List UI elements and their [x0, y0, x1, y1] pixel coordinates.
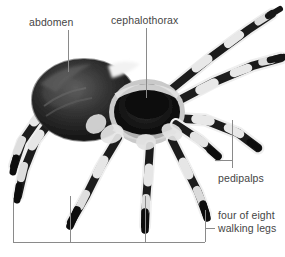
- label-walking-legs-line1: four of eight: [218, 209, 276, 222]
- spider-anatomy-figure: abdomen cephalothorax pedipalps four of …: [0, 0, 285, 257]
- label-pedipalps: pedipalps: [218, 172, 264, 185]
- label-cephalothorax: cephalothorax: [111, 14, 178, 27]
- label-abdomen: abdomen: [29, 16, 73, 29]
- label-walking-legs: four of eight walking legs: [218, 209, 276, 235]
- label-walking-legs-line2: walking legs: [218, 222, 276, 235]
